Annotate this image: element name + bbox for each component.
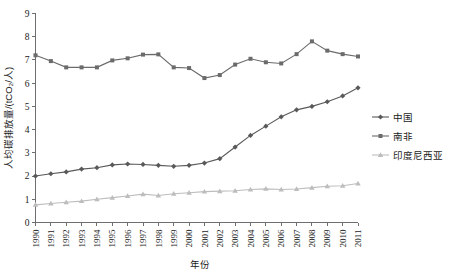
data-point-square bbox=[172, 65, 176, 69]
x-tick-label: 2006 bbox=[276, 229, 286, 248]
data-point-diamond bbox=[48, 171, 53, 176]
y-tick-label: 5 bbox=[25, 102, 30, 112]
x-tick-label: 1999 bbox=[169, 229, 179, 248]
series-line bbox=[36, 183, 359, 204]
x-tick-label: 2000 bbox=[184, 229, 194, 248]
legend-label-1: 中国 bbox=[393, 112, 413, 123]
data-point-diamond bbox=[94, 165, 99, 170]
data-point-square bbox=[126, 56, 130, 60]
data-point-diamond bbox=[294, 107, 299, 112]
x-axis-title: 年份 bbox=[190, 259, 210, 270]
data-point-square bbox=[110, 58, 114, 62]
data-point-square bbox=[341, 52, 345, 56]
data-point-square bbox=[80, 65, 84, 69]
x-tick-label: 1997 bbox=[138, 229, 148, 248]
data-point-square bbox=[95, 65, 99, 69]
data-point-square bbox=[156, 52, 160, 56]
y-tick-label: 8 bbox=[25, 32, 30, 42]
y-axis-title: 人均碳排放量/(tCO₂/人) bbox=[3, 67, 14, 169]
data-point-diamond bbox=[64, 169, 69, 174]
data-point-square bbox=[295, 52, 299, 56]
x-tick-label: 2008 bbox=[307, 229, 317, 248]
y-axis-title-group: 人均碳排放量/(tCO₂/人) bbox=[3, 67, 14, 169]
data-point-square bbox=[356, 54, 360, 58]
y-tick-label: 0 bbox=[25, 218, 30, 228]
legend-label-3: 印度尼西亚 bbox=[393, 150, 443, 161]
data-point-diamond bbox=[309, 104, 314, 109]
data-point-diamond bbox=[33, 173, 38, 178]
x-tick-label: 2010 bbox=[338, 229, 348, 248]
x-tick-label: 2011 bbox=[353, 230, 363, 248]
x-tick-label: 1990 bbox=[31, 229, 41, 248]
data-point-diamond bbox=[171, 164, 176, 169]
x-tick-label: 2002 bbox=[215, 230, 225, 248]
y-tick-label: 3 bbox=[25, 148, 30, 158]
x-axis-ticks: 1990199119921993199419951996199719981999… bbox=[31, 223, 364, 248]
data-point-square bbox=[279, 61, 283, 65]
x-tick-label: 2003 bbox=[230, 229, 240, 248]
data-point-square bbox=[202, 76, 206, 80]
data-point-diamond bbox=[279, 114, 284, 119]
y-tick-label: 9 bbox=[25, 9, 30, 19]
data-point-diamond bbox=[156, 163, 161, 168]
legend: 中国南非印度尼西亚 bbox=[372, 112, 443, 161]
line-chart: 0123456789 19901991199219931994199519961… bbox=[0, 0, 450, 275]
data-point-square bbox=[141, 53, 145, 57]
data-point-square bbox=[64, 65, 68, 69]
legend-marker-1 bbox=[378, 114, 383, 119]
x-tick-label: 2007 bbox=[292, 229, 302, 248]
data-point-square bbox=[34, 53, 38, 57]
x-tick-label: 1993 bbox=[77, 229, 87, 248]
data-point-triangle bbox=[355, 181, 360, 186]
x-tick-label: 1998 bbox=[154, 229, 164, 248]
y-tick-label: 6 bbox=[25, 79, 30, 89]
y-tick-label: 1 bbox=[25, 195, 30, 205]
data-point-diamond bbox=[125, 161, 130, 166]
data-point-square bbox=[264, 60, 268, 64]
data-point-diamond bbox=[263, 124, 268, 129]
series-2 bbox=[34, 39, 361, 80]
data-point-square bbox=[310, 39, 314, 43]
series-line bbox=[36, 88, 359, 176]
y-axis-ticks: 0123456789 bbox=[25, 9, 36, 228]
data-point-diamond bbox=[79, 166, 84, 171]
x-tick-label: 1992 bbox=[61, 230, 71, 248]
x-tick-label: 1994 bbox=[92, 229, 102, 248]
series-3 bbox=[33, 181, 361, 207]
x-tick-label: 1996 bbox=[123, 229, 133, 248]
y-tick-label: 7 bbox=[25, 55, 30, 65]
data-point-diamond bbox=[186, 163, 191, 168]
x-tick-label: 2004 bbox=[246, 229, 256, 248]
legend-label-2: 南非 bbox=[393, 131, 413, 142]
data-point-square bbox=[49, 59, 53, 63]
x-tick-label: 1995 bbox=[107, 229, 117, 248]
x-tick-label: 2009 bbox=[322, 229, 332, 248]
series-layer bbox=[33, 39, 361, 206]
data-point-diamond bbox=[202, 160, 207, 165]
data-point-square bbox=[233, 63, 237, 67]
data-point-square bbox=[218, 73, 222, 77]
data-point-square bbox=[249, 57, 253, 61]
series-1 bbox=[33, 85, 361, 178]
y-tick-label: 4 bbox=[25, 125, 30, 135]
data-point-diamond bbox=[355, 85, 360, 90]
chart-container: 0123456789 19901991199219931994199519961… bbox=[0, 0, 450, 275]
data-point-diamond bbox=[140, 162, 145, 167]
legend-marker-2 bbox=[379, 134, 383, 138]
series-line bbox=[36, 41, 359, 78]
y-tick-label: 2 bbox=[25, 171, 30, 181]
data-point-diamond bbox=[110, 162, 115, 167]
data-point-diamond bbox=[340, 93, 345, 98]
data-point-diamond bbox=[325, 99, 330, 104]
data-point-square bbox=[187, 66, 191, 70]
x-tick-label: 2005 bbox=[261, 229, 271, 248]
x-tick-label: 2001 bbox=[200, 230, 210, 248]
data-point-square bbox=[325, 49, 329, 53]
x-tick-label: 1991 bbox=[46, 230, 56, 248]
